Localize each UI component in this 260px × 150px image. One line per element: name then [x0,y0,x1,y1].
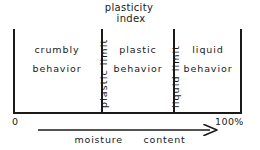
region-crumbly-behavior: crumbly behavior [13,44,101,74]
region-plastic-line-1: plastic [103,44,173,55]
region-plastic-behavior: plastic behavior [103,44,173,74]
region-liquid-behavior: liquid behavior [175,44,241,74]
diagram-title: plasticity index [0,2,260,24]
caption-word-content: content [144,134,186,145]
caption-word-moisture: moisture [75,134,123,145]
region-plastic-line-2: behavior [103,63,173,74]
region-liquid-line-1: liquid [175,44,241,55]
label-plastic-limit: plastic limit [98,39,109,108]
axis-label-hundred-percent: 100% [215,116,244,127]
moisture-content-caption: moisture content [0,134,260,145]
region-liquid-line-2: behavior [175,63,241,74]
label-liquid-limit: liquid limit [170,45,181,108]
axis-label-zero: 0 [12,116,18,127]
plasticity-index-diagram: plasticity index crumbly behavior plasti… [0,0,260,150]
diagram-title-line-1: plasticity [0,2,260,13]
region-crumbly-line-2: behavior [13,63,101,74]
region-crumbly-line-1: crumbly [13,44,101,55]
diagram-title-line-2: index [2,13,260,24]
axis-baseline [13,112,242,114]
